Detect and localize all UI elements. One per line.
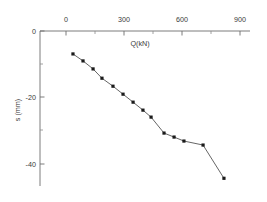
y-axis-title: s (mm) bbox=[13, 99, 22, 121]
chart-figure: 0 300 600 900 0 -20 -40 Q(kN) s (mm) bbox=[0, 0, 267, 202]
data-point bbox=[172, 135, 175, 138]
x-axis-title: Q(kN) bbox=[130, 39, 149, 48]
x-tick-label-900: 900 bbox=[234, 15, 246, 24]
y-tick-label-minus40: -40 bbox=[26, 160, 36, 169]
data-point bbox=[121, 93, 124, 96]
data-point bbox=[162, 131, 165, 134]
data-point bbox=[201, 143, 204, 146]
y-axis-major-ticks bbox=[40, 31, 45, 164]
data-point bbox=[149, 116, 152, 119]
data-point bbox=[81, 59, 84, 62]
data-point bbox=[131, 101, 134, 104]
x-tick-label-0: 0 bbox=[64, 15, 68, 24]
load-settlement-plot: 0 300 600 900 0 -20 -40 Q(kN) s (mm) bbox=[0, 0, 267, 202]
data-point bbox=[71, 52, 74, 55]
data-point bbox=[182, 139, 185, 142]
data-point bbox=[222, 177, 225, 180]
x-tick-label-600: 600 bbox=[176, 15, 188, 24]
data-point bbox=[111, 85, 114, 88]
y-tick-label-0: 0 bbox=[32, 27, 36, 36]
data-point bbox=[100, 77, 103, 80]
series-line-load-settlement bbox=[73, 54, 224, 178]
x-axis-minor-ticks bbox=[95, 31, 211, 34]
data-point bbox=[91, 67, 94, 70]
x-tick-label-300: 300 bbox=[118, 15, 130, 24]
data-point bbox=[141, 109, 144, 112]
series-markers-load-settlement bbox=[71, 52, 225, 180]
y-tick-label-minus20: -20 bbox=[26, 93, 36, 102]
